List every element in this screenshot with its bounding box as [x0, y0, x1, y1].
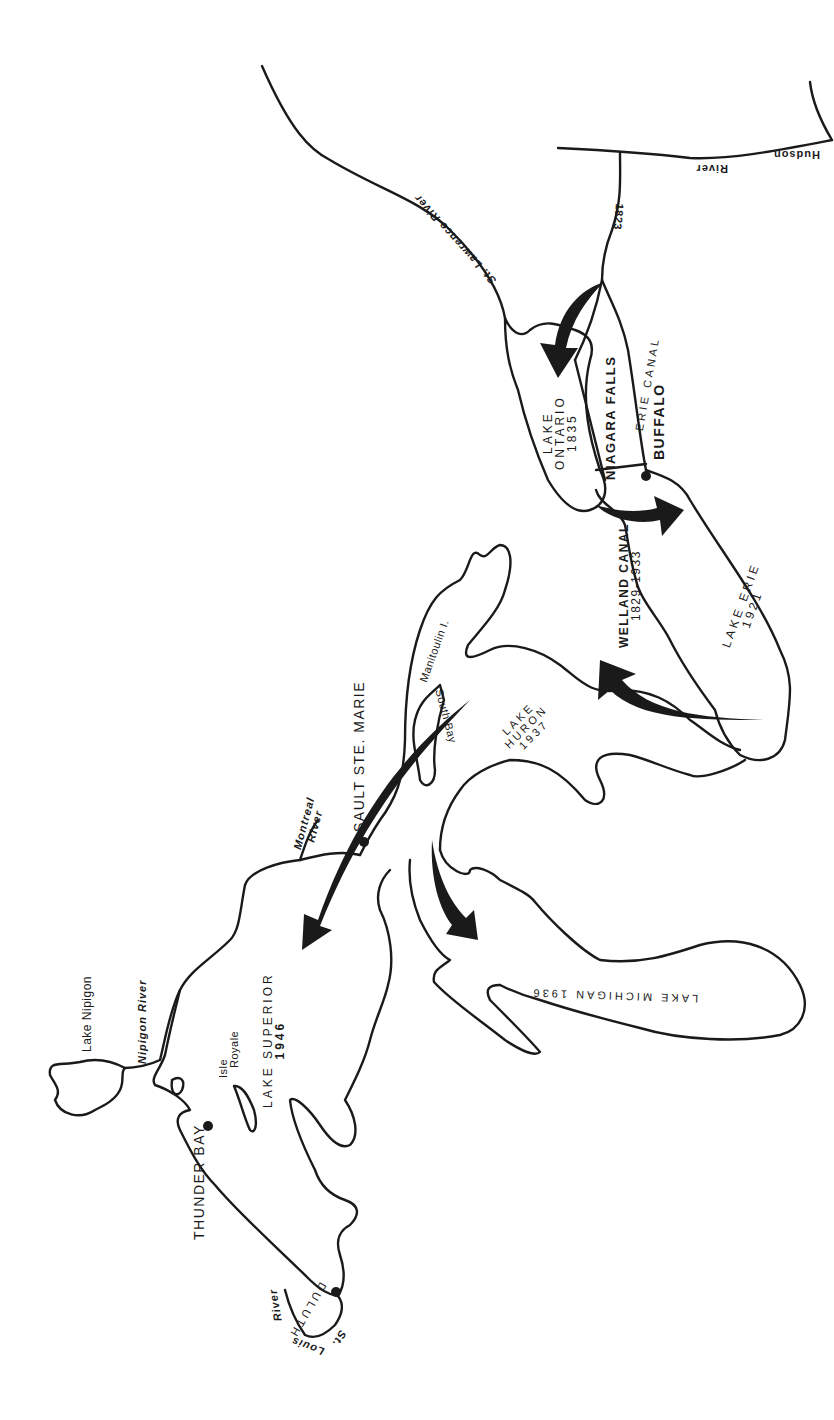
lake-nipigon-shore — [50, 1060, 125, 1115]
nipigon-river-label: Nipigon River — [137, 979, 148, 1064]
hudson-river-label: River — [695, 163, 728, 174]
isle-royale-label: Isle Royale — [218, 1031, 240, 1078]
isle-royale-shape — [234, 1086, 256, 1131]
niagara-falls-label: NIAGARA FALLS — [604, 356, 617, 480]
welland-canal-label: WELLAND CANAL 1829-1933 — [618, 523, 642, 648]
georgian-bay-south-shore — [440, 754, 745, 850]
buffalo-label: BUFFALO — [652, 383, 666, 460]
sault-ste-marie-label: SAULT STE. MARIE — [352, 681, 366, 832]
isle-royale-line2: Royale — [229, 1031, 240, 1078]
buffalo-dot — [641, 471, 651, 481]
lake-michigan-shore — [440, 850, 805, 1039]
hudson-label: Hudson — [773, 149, 820, 160]
lake-nipigon-label: Lake Nipigon — [81, 976, 93, 1052]
welland-canal-years: 1829-1933 — [630, 523, 642, 648]
hudson-river-line — [558, 82, 832, 158]
lake-superior-year: 1946 — [274, 972, 286, 1108]
lake-ontario-label: LAKE ONTARIO 1835 — [542, 395, 578, 470]
lake-superior-label: LAKE SUPERIOR 1946 — [262, 972, 286, 1108]
lake-michigan-west-shore — [409, 860, 540, 1054]
lake-ontario-year: 1835 — [566, 395, 578, 470]
erie-canal-line — [575, 152, 620, 360]
st-lawrence-river-line — [262, 66, 505, 318]
erie-canal-year-label: 1823 — [612, 203, 625, 230]
route-arrow-icon-huron-to-michigan — [432, 840, 478, 940]
nipigon-bay-island — [172, 1078, 184, 1094]
thunder-bay-label: THUNDER BAY — [192, 1124, 206, 1240]
great-lakes-map — [0, 0, 834, 1420]
duluth-dot — [331, 1287, 341, 1297]
lake-huron-shore — [360, 545, 740, 855]
